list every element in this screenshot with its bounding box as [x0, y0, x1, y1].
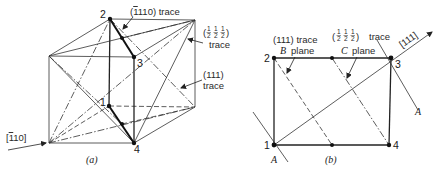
- point-1: [107, 104, 111, 108]
- trace-111-line: [110, 19, 195, 107]
- svg-text:1: 1: [207, 25, 211, 32]
- label-a-bottom: A: [270, 154, 278, 165]
- figure-b-plane: 2 3 1 4 (111) trace B plane ( 1 2 1 2 1 …: [253, 28, 432, 166]
- plane-110-edge: [109, 19, 110, 106]
- label-half-trace-b: ( 1 2 1 2 1 2 ) trace: [332, 28, 390, 42]
- point-1: [272, 143, 277, 148]
- svg-text:2: 2: [344, 35, 348, 42]
- label-c-plane: plane: [352, 45, 375, 56]
- label-c-letter: C: [341, 45, 348, 56]
- label-trace-110: (1110) trace: [130, 6, 180, 17]
- label-half-trace-a: ( 1 2 1 2 1 2 ) trace: [203, 25, 230, 50]
- caption-b: (b): [325, 154, 337, 166]
- svg-text:2: 2: [214, 32, 218, 39]
- label-b-plane: plane: [291, 45, 314, 56]
- label-point-4: 4: [134, 143, 140, 155]
- point-4: [387, 143, 391, 147]
- arrow-direction-110: [8, 143, 46, 150]
- label-point-2: 2: [264, 52, 270, 64]
- trace-half-line: [122, 107, 195, 124]
- crystal-diagram: 2 3 1 4 (1110) trace ( 1 2 1 2 1 2 ) tra…: [0, 0, 438, 170]
- arrow-trace-111-a: [181, 80, 202, 88]
- label-a-top: A: [414, 106, 422, 117]
- b-plane-trace: [274, 58, 332, 145]
- midpoint-bottom: [330, 143, 334, 147]
- trace-half-line: [49, 56, 122, 124]
- svg-text:1: 1: [221, 25, 225, 32]
- svg-text:1: 1: [351, 28, 355, 35]
- rect-edge: [389, 58, 391, 145]
- svg-text:2: 2: [351, 35, 355, 42]
- label-b-letter: B: [280, 45, 286, 56]
- c-plane-trace: [332, 58, 389, 145]
- svg-text:1: 1: [344, 28, 348, 35]
- caption-a: (a): [86, 154, 98, 166]
- cube-edge: [110, 19, 195, 20]
- midpoint-top: [330, 56, 334, 60]
- point-2: [108, 17, 112, 21]
- label-point-3: 3: [137, 57, 143, 69]
- svg-text:2: 2: [221, 32, 225, 39]
- midpoint-top: [120, 36, 124, 40]
- point-3: [132, 55, 136, 59]
- arrow-b-plane: [287, 57, 295, 73]
- face-diagonal: [49, 56, 134, 143]
- a-plane-trace-top: [377, 40, 418, 110]
- label-direction-110: [110]: [6, 132, 26, 143]
- hidden-edge: [49, 106, 109, 143]
- midpoint-bottom: [120, 122, 124, 126]
- svg-text:): ): [226, 27, 229, 38]
- svg-text:(: (: [332, 31, 336, 42]
- label-point-4: 4: [393, 139, 399, 151]
- svg-text:1: 1: [337, 28, 341, 35]
- label-trace-111-a-word: trace: [203, 80, 224, 91]
- label-trace-111-a: (111): [203, 69, 224, 80]
- label-point-1: 1: [100, 96, 106, 108]
- arrow-half-trace-a: [188, 39, 203, 43]
- svg-text:trace: trace: [369, 31, 390, 42]
- svg-text:2: 2: [337, 35, 341, 42]
- label-direction-111: [111]: [397, 29, 419, 49]
- label-point-1: 1: [264, 139, 270, 151]
- point-2: [272, 56, 276, 60]
- label-point-3: 3: [395, 58, 401, 70]
- svg-text:1: 1: [214, 25, 218, 32]
- svg-text:): ): [356, 31, 359, 42]
- point-3: [389, 56, 394, 61]
- arrow-c-plane: [347, 57, 357, 78]
- label-point-2: 2: [100, 8, 106, 20]
- label-trace-111-b: (111) trace: [273, 34, 318, 45]
- svg-text:trace: trace: [209, 39, 230, 50]
- svg-text:2: 2: [207, 32, 211, 39]
- figure-a-cube: 2 3 1 4 (1110) trace ( 1 2 1 2 1 2 ) tra…: [6, 6, 230, 166]
